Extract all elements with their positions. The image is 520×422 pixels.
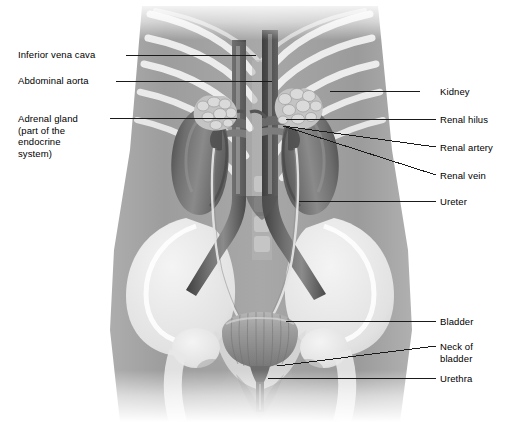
label-urethra: Urethra — [440, 373, 472, 385]
label-ureter: Ureter — [440, 196, 467, 208]
right-adrenal — [194, 96, 238, 131]
label-renal-vein: Renal vein — [440, 170, 486, 182]
label-inferior-vena-cava: Inferior vena cava — [18, 49, 95, 61]
label-neck-of-bladder: Neck of bladder — [440, 341, 473, 364]
label-renal-hilus: Renal hilus — [440, 114, 488, 126]
label-abdominal-aorta: Abdominal aorta — [18, 75, 89, 87]
label-bladder: Bladder — [440, 316, 473, 328]
diagram-canvas: Inferior vena cavaAbdominal aortaAdrenal… — [0, 0, 520, 422]
label-kidney: Kidney — [440, 86, 470, 98]
left-adrenal — [275, 88, 323, 129]
label-adrenal-gland: Adrenal gland (part of the endocrine sys… — [18, 113, 78, 159]
top-fade — [110, 0, 415, 40]
label-renal-artery: Renal artery — [440, 142, 493, 154]
